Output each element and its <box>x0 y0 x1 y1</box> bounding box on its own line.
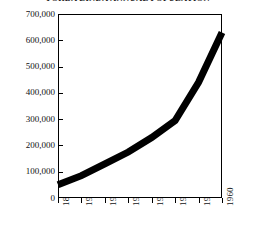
y-axis-tick-label: 600,000 <box>1 36 55 45</box>
x-axis-tick-label: 1960 <box>226 187 235 206</box>
y-axis-tick-label: 700,000 <box>1 10 55 19</box>
y-axis-tick-label: 100,000 <box>1 167 55 176</box>
x-axis-tick-mark <box>199 198 200 203</box>
x-axis-tick-mark <box>58 198 59 203</box>
y-axis-tick-mark <box>58 67 63 68</box>
y-axis-tick-mark <box>58 93 63 94</box>
y-axis-tick-label: 200,000 <box>1 141 55 150</box>
population-line-series <box>58 32 222 184</box>
line-chart-figure: YORBA LINDA ANNUAL POPULATION 700,000600… <box>0 0 255 251</box>
x-axis-tick-mark <box>152 198 153 203</box>
y-axis-tick-mark <box>58 119 63 120</box>
x-axis-tick-mark <box>175 198 176 203</box>
y-axis-tick-label: 300,000 <box>1 115 55 124</box>
y-axis-tick-label: 0 <box>1 194 55 203</box>
y-axis: 700,000600,000500,000400,000300,000200,0… <box>0 0 55 251</box>
y-axis-tick-mark <box>58 172 63 173</box>
plot-canvas <box>58 14 222 198</box>
x-axis-tick-mark <box>105 198 106 203</box>
y-axis-tick-mark <box>58 40 63 41</box>
x-axis-tick-mark <box>81 198 82 203</box>
y-axis-tick-label: 500,000 <box>1 62 55 71</box>
y-axis-tick-label: 400,000 <box>1 88 55 97</box>
y-axis-tick-mark <box>58 145 63 146</box>
x-axis-tick-mark <box>128 198 129 203</box>
x-axis-tick-mark <box>222 198 223 203</box>
